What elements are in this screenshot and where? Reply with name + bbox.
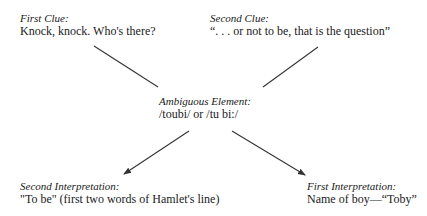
node-second-clue: Second Clue: “. . . or not to be, that i… — [210, 12, 390, 38]
node-first-clue: First Clue: Knock, knock. Who's there? — [20, 12, 156, 38]
node-first-interpretation: First Interpretation: Name of boy—“Toby” — [307, 180, 417, 206]
second-clue-text: “. . . or not to be, that is the questio… — [210, 25, 390, 38]
edge-ambiguous-to-second-interpretation — [124, 131, 189, 174]
edge-second-clue-to-ambiguous — [263, 47, 318, 87]
edge-ambiguous-to-first-interpretation — [232, 131, 305, 175]
node-second-interpretation: Second Interpretation: "To be" (first tw… — [20, 180, 219, 206]
second-interpretation-text: "To be" (first two words of Hamlet's lin… — [20, 193, 219, 206]
first-interpretation-text: Name of boy—“Toby” — [307, 193, 417, 206]
ambiguous-element-text: /toubi/ or /tu bi:/ — [159, 108, 251, 121]
first-clue-text: Knock, knock. Who's there? — [20, 25, 156, 38]
node-ambiguous-element: Ambiguous Element: /toubi/ or /tu bi:/ — [159, 95, 251, 121]
edge-first-clue-to-ambiguous — [94, 46, 158, 87]
